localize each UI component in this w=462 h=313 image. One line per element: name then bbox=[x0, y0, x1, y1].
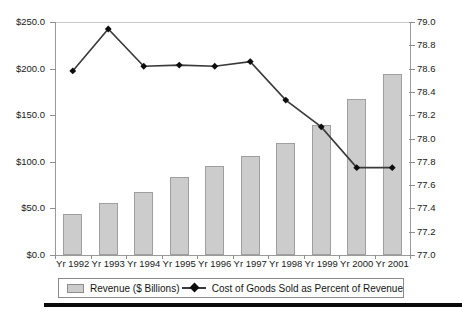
right-axis-tick bbox=[409, 22, 415, 23]
right-axis-tick bbox=[409, 185, 415, 186]
left-axis-tick-label: $200.0 bbox=[0, 64, 45, 74]
right-axis-tick-label: 77.8 bbox=[417, 157, 457, 167]
right-axis-tick-label: 78.4 bbox=[417, 87, 457, 97]
right-axis-tick bbox=[409, 162, 415, 163]
bar-revenue bbox=[276, 143, 295, 255]
bar-revenue bbox=[241, 156, 260, 255]
right-axis-tick bbox=[409, 232, 415, 233]
left-axis-tick-label: $250.0 bbox=[0, 17, 45, 27]
right-axis-tick bbox=[409, 69, 415, 70]
right-axis-tick-label: 78.0 bbox=[417, 134, 457, 144]
left-axis-tick-label: $150.0 bbox=[0, 110, 45, 120]
category-axis-label: Yr 2001 bbox=[375, 259, 411, 269]
right-axis-tick-label: 77.6 bbox=[417, 180, 457, 190]
right-axis-tick bbox=[409, 139, 415, 140]
legend-label-cogs: Cost of Goods Sold as Percent of Revenue bbox=[212, 283, 403, 294]
chart-figure: $0.0$50.0$100.0$150.0$200.0$250.0 77.077… bbox=[0, 0, 462, 313]
bar-swatch-icon bbox=[67, 284, 84, 293]
right-axis-tick-label: 78.8 bbox=[417, 40, 457, 50]
left-axis-tick bbox=[50, 69, 56, 70]
gridline-top bbox=[55, 22, 411, 23]
bar-revenue bbox=[63, 214, 82, 255]
category-axis-label: Yr 1993 bbox=[91, 259, 127, 269]
left-axis-tick bbox=[50, 208, 56, 209]
category-axis-label: Yr 1999 bbox=[304, 259, 340, 269]
right-axis-tick bbox=[409, 92, 415, 93]
category-axis-label: Yr 2000 bbox=[339, 259, 375, 269]
left-axis-tick bbox=[50, 162, 56, 163]
left-axis-line bbox=[55, 22, 56, 256]
bar-revenue bbox=[170, 177, 189, 255]
bar-revenue bbox=[205, 166, 224, 255]
legend-entry-cogs: Cost of Goods Sold as Percent of Revenue bbox=[182, 283, 403, 294]
right-axis-tick-label: 77.2 bbox=[417, 227, 457, 237]
bar-revenue bbox=[312, 125, 331, 255]
line-marker-swatch-icon bbox=[182, 283, 206, 293]
left-axis-tick-label: $100.0 bbox=[0, 157, 45, 167]
legend-entry-revenue: Revenue ($ Billions) bbox=[67, 283, 180, 294]
legend-label-revenue: Revenue ($ Billions) bbox=[90, 283, 180, 294]
right-axis-tick-label: 79.0 bbox=[417, 17, 457, 27]
chart-legend: Revenue ($ Billions) Cost of Goods Sold … bbox=[58, 278, 404, 298]
right-axis-tick-label: 77.4 bbox=[417, 203, 457, 213]
bottom-divider bbox=[44, 303, 462, 307]
category-axis-label: Yr 1997 bbox=[233, 259, 269, 269]
bar-revenue bbox=[347, 99, 366, 255]
bar-revenue bbox=[383, 74, 402, 255]
category-axis-label: Yr 1995 bbox=[162, 259, 198, 269]
left-axis-tick-label: $50.0 bbox=[0, 203, 45, 213]
right-axis-tick-label: 77.0 bbox=[417, 250, 457, 260]
bar-revenue bbox=[134, 192, 153, 255]
left-axis-tick bbox=[50, 115, 56, 116]
left-axis-tick bbox=[50, 22, 56, 23]
left-axis-tick-label: $0.0 bbox=[0, 250, 45, 260]
category-axis-label: Yr 1998 bbox=[268, 259, 304, 269]
right-axis-tick-label: 78.2 bbox=[417, 110, 457, 120]
category-axis-tick bbox=[410, 255, 411, 259]
right-axis-tick bbox=[409, 45, 415, 46]
right-axis-tick bbox=[409, 115, 415, 116]
category-axis-label: Yr 1992 bbox=[55, 259, 91, 269]
bar-revenue bbox=[99, 203, 118, 255]
right-axis-tick-label: 78.6 bbox=[417, 64, 457, 74]
right-axis-tick bbox=[409, 208, 415, 209]
category-axis-label: Yr 1994 bbox=[126, 259, 162, 269]
category-axis-label: Yr 1996 bbox=[197, 259, 233, 269]
